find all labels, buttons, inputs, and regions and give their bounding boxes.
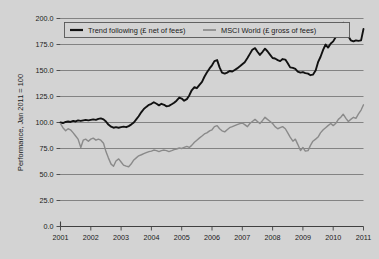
chart-container: 0.025.050.075.0100.0125.0150.0175.0200.0… — [0, 0, 379, 259]
y-axis-title-text: Performance, Jan 2011 = 100 — [16, 74, 25, 171]
y-tick-label-50: 50.0 — [40, 170, 54, 179]
x-tick-label-2011: 2011 — [356, 233, 371, 242]
y-tick-label-0: 0.0 — [44, 222, 54, 231]
x-tick-label-2005: 2005 — [174, 233, 190, 242]
x-tick-label-2004: 2004 — [143, 233, 159, 242]
x-tick-label-2007: 2007 — [234, 233, 250, 242]
x-tick-label-2003: 2003 — [113, 233, 129, 242]
x-tick-label-2009: 2009 — [295, 233, 311, 242]
chart-background — [0, 0, 379, 259]
y-axis-title: Performance, Jan 2011 = 100 — [16, 74, 25, 171]
y-tick-label-100: 100.0 — [36, 118, 54, 127]
chart-legend[interactable]: Trend following (£ net of fees)MSCI Worl… — [65, 23, 350, 38]
x-tick-label-2001: 2001 — [53, 233, 69, 242]
legend-label-1: MSCI World (£ gross of fees) — [221, 26, 316, 35]
legend-label-0: Trend following (£ net of fees) — [88, 26, 186, 35]
x-tick-label-2008: 2008 — [265, 233, 281, 242]
y-tick-label-125: 125.0 — [36, 92, 54, 101]
y-tick-label-200: 200.0 — [36, 14, 54, 23]
x-tick-label-2006: 2006 — [204, 233, 220, 242]
y-tick-label-25: 25.0 — [40, 196, 54, 205]
y-tick-label-175: 175.0 — [36, 40, 54, 49]
y-tick-label-150: 150.0 — [36, 66, 54, 75]
x-tick-label-2002: 2002 — [83, 233, 99, 242]
y-tick-label-75: 75.0 — [40, 144, 54, 153]
performance-line-chart: 0.025.050.075.0100.0125.0150.0175.0200.0… — [0, 0, 379, 259]
x-tick-label-2010: 2010 — [325, 233, 341, 242]
